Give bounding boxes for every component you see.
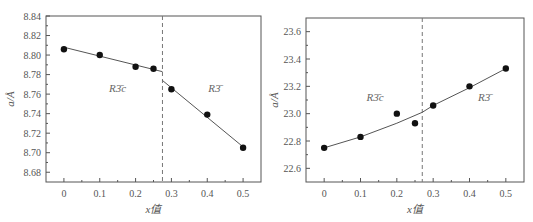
x-tick-label: 0 <box>61 188 66 199</box>
data-point <box>466 83 472 89</box>
data-point <box>394 110 400 116</box>
x-axis-label: x值 <box>145 203 164 215</box>
data-point <box>132 64 138 70</box>
x-tick-label: 0.3 <box>165 188 178 199</box>
y-tick-label: 22.8 <box>284 136 302 147</box>
x-tick-label: 0.4 <box>463 188 476 199</box>
x-tick-label: 0.5 <box>237 188 250 199</box>
phase-label: R3̄c <box>108 82 126 94</box>
fit-line <box>162 80 243 146</box>
x-tick-label: 0.5 <box>500 188 513 199</box>
x-tick-label: 0.4 <box>201 188 214 199</box>
phase-label: R3̄ <box>477 91 493 103</box>
data-point <box>204 111 210 117</box>
lattice-a-chart-left: 8.688.708.728.748.768.788.808.828.8400.1… <box>0 0 270 222</box>
data-point <box>321 145 327 151</box>
y-tick-label: 8.80 <box>24 50 42 61</box>
y-tick-label: 23.4 <box>284 54 302 65</box>
y-tick-label: 8.84 <box>24 11 42 22</box>
phase-label: R3̄ <box>207 82 223 94</box>
y-tick-label: 22.6 <box>284 163 302 174</box>
data-point <box>240 145 246 151</box>
y-tick-label: 8.70 <box>24 147 42 158</box>
data-point <box>357 134 363 140</box>
x-tick-label: 0.1 <box>94 188 107 199</box>
chart-left-svg: 8.688.708.728.748.768.788.808.828.8400.1… <box>0 0 270 222</box>
y-tick-label: 8.82 <box>24 30 42 41</box>
x-axis-label: x值 <box>406 203 425 215</box>
lattice-c-chart-right: 22.622.823.023.223.423.600.10.20.30.40.5… <box>268 0 533 222</box>
data-point <box>97 52 103 58</box>
data-point <box>430 102 436 108</box>
y-axis-label: a/Å <box>4 91 16 107</box>
y-axis-label: a/Å <box>268 92 280 108</box>
data-point <box>503 65 509 71</box>
fit-line <box>64 47 163 71</box>
y-tick-label: 23.6 <box>284 26 302 37</box>
y-tick-label: 8.68 <box>24 167 42 178</box>
data-point <box>61 46 67 52</box>
y-tick-label: 8.72 <box>24 128 42 139</box>
y-tick-label: 23.0 <box>284 108 302 119</box>
chart-right-svg: 22.622.823.023.223.423.600.10.20.30.40.5… <box>268 0 533 222</box>
fit-line <box>324 112 422 148</box>
y-tick-label: 23.2 <box>284 81 302 92</box>
x-tick-label: 0.2 <box>129 188 142 199</box>
data-point <box>168 86 174 92</box>
plot-frame <box>306 18 524 182</box>
x-tick-label: 0.3 <box>427 188 440 199</box>
y-tick-label: 8.74 <box>24 108 42 119</box>
x-tick-label: 0 <box>322 188 327 199</box>
y-tick-label: 8.78 <box>24 69 42 80</box>
x-tick-label: 0.2 <box>391 188 404 199</box>
x-tick-label: 0.1 <box>354 188 367 199</box>
data-point <box>150 66 156 72</box>
data-point <box>412 120 418 126</box>
y-tick-label: 8.76 <box>24 89 42 100</box>
phase-label: R3̄c <box>365 91 383 103</box>
plot-frame <box>46 16 261 182</box>
